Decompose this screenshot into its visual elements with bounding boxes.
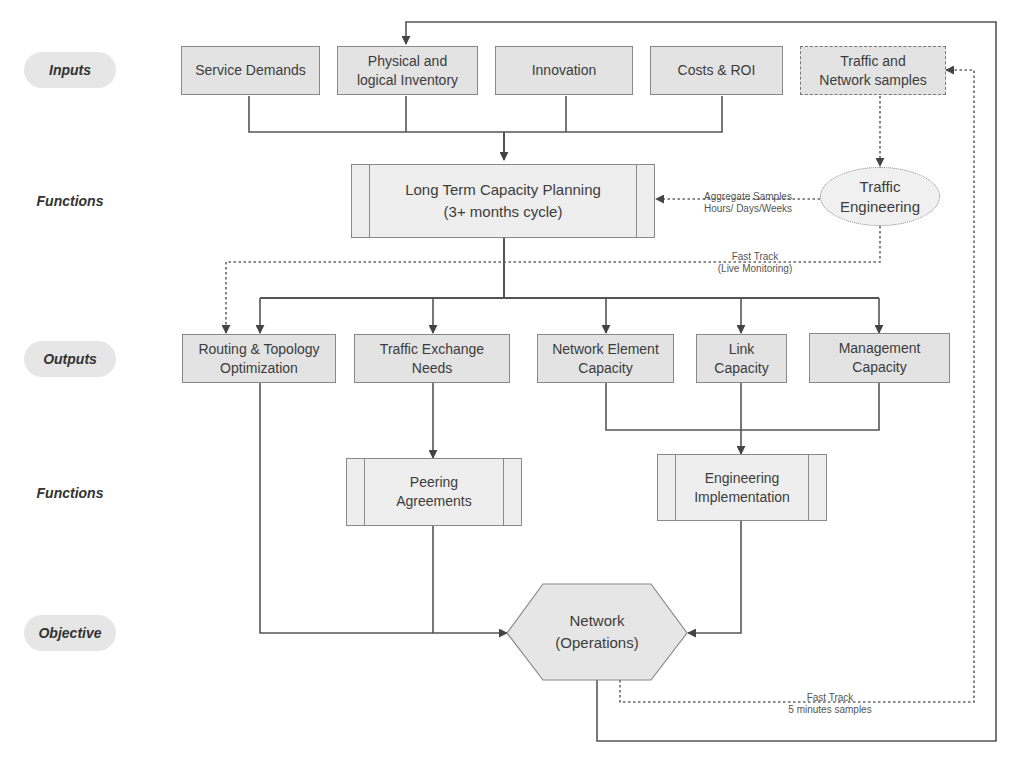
input-physical-logical-inventory[interactable]: Physical and logical Inventory xyxy=(337,46,478,95)
lane-label-objective: Objective xyxy=(24,615,116,651)
lane-label-outputs: Outputs xyxy=(24,341,116,377)
output-network-element-capacity[interactable]: Network Element Capacity xyxy=(537,334,674,383)
function-peering-agreements[interactable]: Peering Agreements xyxy=(346,458,522,526)
objective-network-operations[interactable]: Network (Operations) xyxy=(530,588,664,676)
input-traffic-network-samples[interactable]: Traffic and Network samples xyxy=(800,46,946,95)
annotation-aggregate-samples: Aggregate Samples Hours/ Days/Weeks xyxy=(688,191,808,215)
function-long-term-capacity-planning[interactable]: Long Term Capacity Planning (3+ months c… xyxy=(351,164,655,238)
input-service-demands[interactable]: Service Demands xyxy=(181,46,320,95)
lane-label-functions-implementation: Functions xyxy=(24,475,116,511)
lane-label-inputs: Inputs xyxy=(24,52,116,88)
annotation-fast-track-5min: Fast Track 5 minutes samples xyxy=(770,692,890,716)
lane-label-functions-planning: Functions xyxy=(24,183,116,219)
output-routing-topology-optimization[interactable]: Routing & Topology Optimization xyxy=(182,334,336,383)
annotation-fast-track-live: Fast Track (Live Monitoring) xyxy=(700,251,810,275)
output-link-capacity[interactable]: Link Capacity xyxy=(696,334,787,383)
input-costs-roi[interactable]: Costs & ROI xyxy=(650,46,783,95)
output-traffic-exchange-needs[interactable]: Traffic Exchange Needs xyxy=(354,334,510,383)
capacity-planning-diagram: Inputs Functions Outputs Functions Objec… xyxy=(0,0,1017,757)
input-innovation[interactable]: Innovation xyxy=(495,46,633,95)
function-engineering-implementation[interactable]: Engineering Implementation xyxy=(657,454,827,521)
function-traffic-engineering[interactable]: Traffic Engineering xyxy=(820,167,940,226)
output-management-capacity[interactable]: Management Capacity xyxy=(809,333,950,383)
